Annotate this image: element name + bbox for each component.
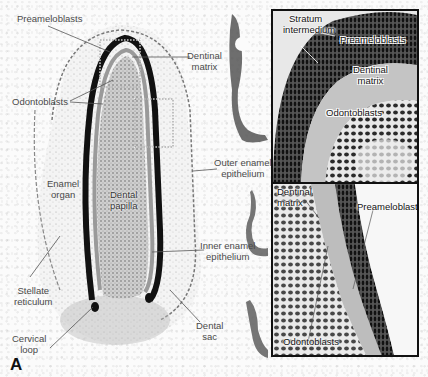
label-stellate-reticulum: Stellate reticulum: [14, 285, 53, 307]
inset-bottom-label-dentinal-matrix-line2: matrix: [277, 197, 312, 208]
inset-top-label-dentinal-matrix-line2: matrix: [353, 75, 388, 86]
label-dental-papilla-line2: papilla: [110, 200, 137, 211]
label-dental-sac: Dental sac: [196, 320, 223, 342]
panel-letter: A: [10, 355, 22, 375]
label-enamel-organ-line1: Enamel: [47, 178, 79, 189]
label-dental-papilla: Dental papilla: [110, 189, 137, 211]
label-inner-enamel-line2: epithelium: [200, 251, 255, 262]
label-inner-enamel-epithelium: Inner enamel epithelium: [200, 240, 255, 262]
label-dental-papilla-line1: Dental: [110, 189, 137, 200]
label-enamel-organ-line2: organ: [47, 189, 79, 200]
inset-top-label-preameloblasts: Preameloblasts: [340, 34, 405, 45]
label-outer-enamel-line2: epithelium: [214, 168, 272, 179]
label-preameloblasts: Preameloblasts: [17, 13, 82, 24]
inset-bottom-label-dentinal-matrix: Dentinal matrix: [277, 186, 312, 208]
label-cervical-loop-line1: Cervical: [12, 333, 46, 344]
label-dentinal-matrix-line2: matrix: [187, 61, 222, 72]
label-dental-sac-line1: Dental: [196, 320, 223, 331]
inset-bottom-label-preameloblasts: Preameloblasts: [357, 201, 419, 212]
label-dental-sac-line2: sac: [196, 331, 223, 342]
inset-top-label-stratum-line2: intermedium: [283, 24, 335, 35]
label-odontoblasts: Odontoblasts: [12, 96, 68, 107]
inset-top-label-stratum-intermedium: Stratum intermedium: [283, 13, 335, 35]
inset-bottom-label-odontoblasts: Odontoblasts: [283, 336, 339, 347]
inset-bottom-micrograph: Dentinal matrix Preameloblasts Odontobla…: [271, 182, 419, 357]
label-inner-enamel-line1: Inner enamel: [200, 240, 255, 251]
label-stellate-line1: Stellate: [14, 285, 53, 296]
label-outer-enamel-line1: Outer enamel: [214, 157, 272, 168]
label-cervical-loop: Cervical loop: [12, 333, 46, 355]
inset-top-label-odontoblasts: Odontoblasts: [326, 107, 382, 118]
inset-top-label-dentinal-matrix: Dentinal matrix: [353, 64, 388, 86]
histology-figure: Preameloblasts Dentinal matrix Odontobla…: [0, 0, 428, 377]
inset-bottom-label-dentinal-matrix-line1: Dentinal: [277, 186, 312, 197]
label-stellate-line2: reticulum: [14, 296, 53, 307]
label-outer-enamel-epithelium: Outer enamel epithelium: [214, 157, 272, 179]
label-enamel-organ: Enamel organ: [47, 178, 79, 200]
inset-top-label-dentinal-matrix-line1: Dentinal: [353, 64, 388, 75]
inset-top-label-stratum-line1: Stratum: [283, 13, 335, 24]
label-dentinal-matrix: Dentinal matrix: [187, 50, 222, 72]
inset-top-micrograph: Stratum intermedium Preameloblasts Denti…: [271, 9, 419, 184]
label-cervical-loop-line2: loop: [12, 344, 46, 355]
label-dentinal-matrix-line1: Dentinal: [187, 50, 222, 61]
